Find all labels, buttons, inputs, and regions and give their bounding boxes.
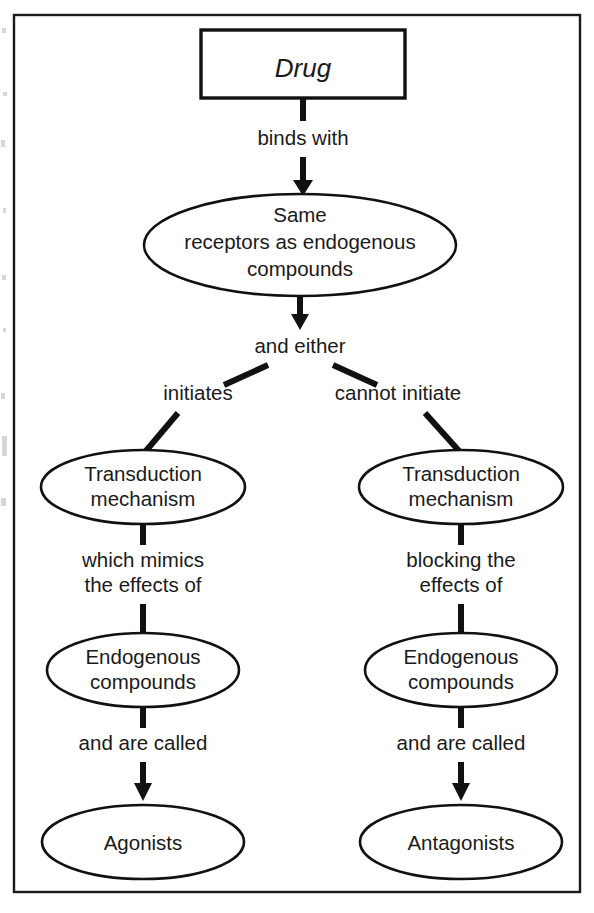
endogenous-left-line-2: compounds	[90, 670, 196, 693]
arrowhead-to-antagonists	[452, 783, 470, 801]
edge-label-and-are-called-right: and are called	[397, 731, 526, 754]
node-endogenous-right: Endogenous compounds	[365, 633, 557, 707]
connector-initiates-to-transduction-left	[145, 413, 178, 452]
edge-label-and-either: and either	[254, 334, 345, 357]
node-antagonists: Antagonists	[360, 805, 562, 879]
edge-label-which-mimics-2: the effects of	[84, 573, 201, 596]
node-transduction-right: Transduction mechanism	[359, 450, 563, 524]
transduction-left-line-1: Transduction	[84, 462, 202, 485]
node-transduction-left: Transduction mechanism	[41, 450, 245, 524]
edge-label-blocking-2: effects of	[420, 573, 503, 596]
edge-label-blocking-1: blocking the	[406, 548, 515, 571]
node-same-receptors: Same receptors as endogenous compounds	[144, 194, 456, 296]
edge-label-binds-with: binds with	[257, 126, 348, 149]
transduction-right-line-1: Transduction	[402, 462, 520, 485]
figure-page: Drug binds with Same receptors as endoge…	[0, 0, 594, 913]
flowchart-canvas: Drug binds with Same receptors as endoge…	[0, 0, 594, 913]
same-receptors-line-1: Same	[273, 203, 327, 226]
endogenous-right-line-1: Endogenous	[403, 645, 518, 668]
node-endogenous-left: Endogenous compounds	[47, 633, 239, 707]
edge-label-and-are-called-left: and are called	[79, 731, 208, 754]
node-drug: Drug	[201, 30, 405, 98]
edge-label-initiates: initiates	[163, 381, 233, 404]
agonists-label: Agonists	[104, 831, 183, 854]
edge-label-cannot-initiate: cannot initiate	[335, 381, 462, 404]
same-receptors-line-2: receptors as endogenous	[184, 230, 415, 253]
antagonists-label: Antagonists	[407, 831, 514, 854]
edge-label-which-mimics-1: which mimics	[81, 548, 204, 571]
endogenous-left-line-1: Endogenous	[85, 645, 200, 668]
transduction-left-line-2: mechanism	[91, 487, 196, 510]
arrowhead-to-and-either	[291, 314, 309, 330]
node-agonists: Agonists	[42, 805, 244, 879]
endogenous-right-line-2: compounds	[408, 670, 514, 693]
connector-cannot-initiate-to-transduction-right	[425, 413, 460, 452]
same-receptors-line-3: compounds	[247, 257, 353, 280]
drug-label: Drug	[275, 53, 332, 83]
transduction-right-line-2: mechanism	[409, 487, 514, 510]
arrowhead-to-agonists	[134, 783, 152, 801]
